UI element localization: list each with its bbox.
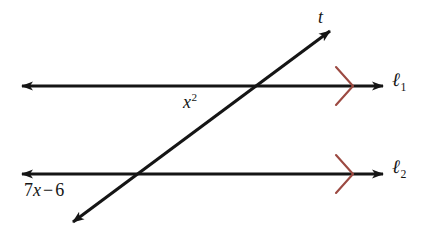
angle-expression-lower: 7x−6 bbox=[24, 181, 64, 199]
diagram-canvas bbox=[0, 0, 427, 247]
line-1-label: ℓ1 bbox=[392, 70, 406, 89]
angle-lower-coefficient: 7 bbox=[24, 180, 33, 200]
transversal-group bbox=[73, 31, 330, 222]
line-2-label-subscript: 2 bbox=[400, 168, 406, 181]
angle-upper-variable: x bbox=[183, 92, 191, 112]
transversal-line bbox=[73, 31, 330, 222]
geometry-figure: t ℓ1 ℓ2 x2 7x−6 bbox=[0, 0, 427, 247]
line-2-label: ℓ2 bbox=[392, 157, 406, 176]
line-1-label-subscript: 1 bbox=[400, 81, 406, 94]
angle-lower-variable: x bbox=[33, 180, 41, 200]
angle-upper-exponent: 2 bbox=[192, 91, 198, 103]
line-1-label-base: ℓ bbox=[392, 68, 400, 90]
angle-expression-upper: x2 bbox=[183, 93, 197, 111]
angle-lower-constant: 6 bbox=[55, 180, 64, 200]
angle-lower-operator: − bbox=[43, 180, 53, 200]
transversal-label: t bbox=[318, 8, 323, 26]
line-2-label-base: ℓ bbox=[392, 155, 400, 177]
